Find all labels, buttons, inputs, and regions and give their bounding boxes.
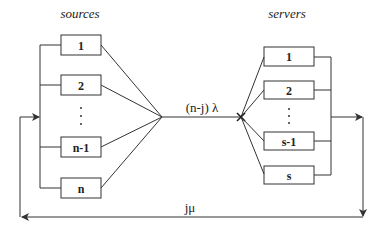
sources-title: sources xyxy=(60,6,99,21)
servers-title: servers xyxy=(268,6,306,21)
source-label-1: 1 xyxy=(78,39,84,53)
source-ellipsis xyxy=(80,107,82,125)
source-label-2: 2 xyxy=(78,79,84,93)
server-ellipsis xyxy=(288,108,290,124)
source-label-n: n xyxy=(78,182,85,196)
queueing-diagram: sources servers xyxy=(0,0,384,233)
return-rate-label: jμ xyxy=(184,200,196,215)
server-label-s-1: s-1 xyxy=(282,135,297,149)
server-label-1: 1 xyxy=(286,50,292,64)
arrival-rate-label: (n-j) λ xyxy=(186,100,219,115)
server-label-2: 2 xyxy=(286,84,292,98)
source-label-n-1: n-1 xyxy=(73,141,90,155)
server-label-s: s xyxy=(287,169,292,183)
